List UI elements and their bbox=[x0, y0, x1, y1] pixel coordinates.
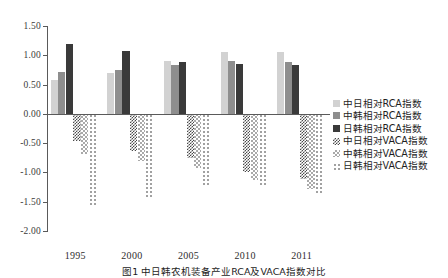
bar bbox=[115, 70, 122, 114]
bar bbox=[122, 51, 129, 114]
y-tick-label: -0.50 bbox=[20, 138, 41, 148]
y-tick-label: 1.00 bbox=[24, 50, 41, 60]
y-tick-label: -1.50 bbox=[20, 197, 41, 207]
bar bbox=[292, 65, 299, 114]
x-tick-label: 2005 bbox=[178, 250, 199, 261]
legend-label: 中日相对RCA指数 bbox=[343, 99, 422, 109]
y-tick-mark bbox=[43, 172, 47, 173]
bar bbox=[315, 114, 322, 195]
y-tick-mark bbox=[43, 202, 47, 203]
y-tick-mark bbox=[43, 231, 47, 232]
bar bbox=[194, 114, 201, 168]
figure-caption: 图1 中日韩农机装备产业RCA及VACA指数对比 bbox=[0, 264, 448, 278]
bar bbox=[259, 114, 266, 185]
x-tick-label: 1995 bbox=[65, 250, 86, 261]
bar bbox=[171, 65, 178, 114]
bar bbox=[187, 114, 194, 159]
bar bbox=[277, 52, 284, 114]
legend-item-5[interactable]: 中韩相对VACA指数 bbox=[333, 147, 447, 160]
y-tick-label: 1.50 bbox=[24, 21, 41, 31]
legend-label: 日韩相对RCA指数 bbox=[343, 124, 422, 134]
legend-item-3[interactable]: 日韩相对RCA指数 bbox=[333, 122, 447, 135]
legend-label: 中韩相对VACA指数 bbox=[343, 149, 428, 159]
bar bbox=[89, 114, 96, 205]
bar-group bbox=[107, 26, 152, 231]
bar-group bbox=[164, 26, 209, 231]
bar bbox=[138, 114, 145, 161]
legend-item-4[interactable]: 中日相对VACA指数 bbox=[333, 135, 447, 148]
bar bbox=[251, 114, 258, 180]
bar bbox=[58, 72, 65, 114]
y-tick-mark bbox=[43, 85, 47, 86]
y-tick-label: 0.00 bbox=[24, 109, 41, 119]
bar bbox=[73, 114, 80, 141]
x-tick-label: 2011 bbox=[291, 250, 312, 261]
legend-label: 中日相对VACA指数 bbox=[343, 136, 428, 146]
bar-group bbox=[221, 26, 266, 231]
bar bbox=[107, 73, 114, 113]
plot-area: 1.501.000.500.00-0.50-1.00-1.50-2.001995… bbox=[47, 26, 330, 231]
bar bbox=[307, 114, 314, 190]
bar bbox=[221, 52, 228, 114]
bar bbox=[179, 62, 186, 114]
bar bbox=[202, 114, 209, 187]
x-tick-label: 2000 bbox=[121, 250, 142, 261]
y-tick-mark bbox=[43, 55, 47, 56]
bar-group bbox=[277, 26, 322, 231]
bar bbox=[130, 114, 137, 151]
bar bbox=[228, 61, 235, 114]
x-tick-label: 2010 bbox=[234, 250, 255, 261]
legend-item-2[interactable]: 中韩相对RCA指数 bbox=[333, 110, 447, 123]
y-tick-mark bbox=[43, 26, 47, 27]
y-tick-mark bbox=[43, 143, 47, 144]
legend-swatch-icon bbox=[333, 100, 340, 107]
y-tick-label: -1.00 bbox=[20, 167, 41, 177]
bar-group bbox=[51, 26, 96, 231]
legend-swatch-icon bbox=[333, 163, 340, 170]
bar bbox=[81, 114, 88, 154]
legend-item-1[interactable]: 中日相对RCA指数 bbox=[333, 97, 447, 110]
bar bbox=[66, 44, 73, 114]
legend-item-6[interactable]: 日韩相对VACA指数 bbox=[333, 160, 447, 173]
bar bbox=[145, 114, 152, 199]
chart-legend: 中日相对RCA指数中韩相对RCA指数日韩相对RCA指数中日相对VACA指数中韩相… bbox=[333, 97, 447, 173]
legend-swatch-icon bbox=[333, 112, 340, 119]
y-tick-label: 0.50 bbox=[24, 80, 41, 90]
legend-swatch-icon bbox=[333, 125, 340, 132]
legend-label: 日韩相对VACA指数 bbox=[343, 161, 428, 171]
bar bbox=[300, 114, 307, 180]
legend-swatch-icon bbox=[333, 138, 340, 145]
bar bbox=[243, 114, 250, 173]
bar bbox=[236, 64, 243, 114]
y-tick-label: -2.00 bbox=[20, 226, 41, 236]
legend-label: 中韩相对RCA指数 bbox=[343, 111, 422, 121]
legend-swatch-icon bbox=[333, 150, 340, 157]
bar bbox=[51, 80, 58, 114]
bar bbox=[164, 61, 171, 114]
bar bbox=[285, 62, 292, 114]
x-axis-line bbox=[47, 114, 330, 115]
